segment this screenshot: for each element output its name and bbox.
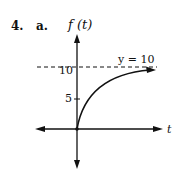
chart-plot bbox=[0, 0, 179, 179]
origin-point bbox=[75, 127, 79, 131]
x-axis-right-arrow-icon bbox=[153, 126, 163, 132]
x-axis-left-arrow-icon bbox=[35, 126, 45, 132]
y-axis-up-arrow-icon bbox=[74, 34, 80, 43]
curve-f bbox=[77, 70, 150, 129]
y-axis-down-arrow-icon bbox=[74, 160, 80, 169]
